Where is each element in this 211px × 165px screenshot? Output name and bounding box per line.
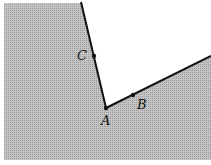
angle-diagram: A B C xyxy=(0,0,211,165)
point-c xyxy=(92,54,96,58)
label-a: A xyxy=(100,113,110,128)
label-c: C xyxy=(77,48,87,63)
label-b: B xyxy=(136,97,147,112)
point-b xyxy=(131,93,135,97)
point-a xyxy=(104,106,108,110)
shaded-region xyxy=(4,3,211,160)
